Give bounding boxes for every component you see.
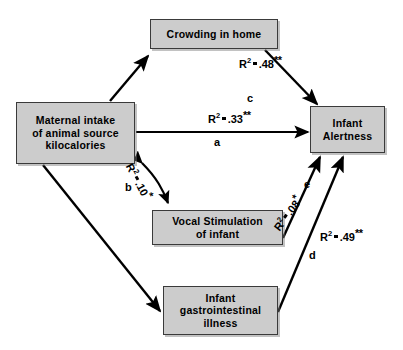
node-infant-gastrointestinal-illness[interactable]: Infant gastrointestinal illness: [163, 286, 278, 335]
path-d-value: .49: [340, 231, 355, 243]
path-c-statistic: R2.48**: [239, 55, 281, 70]
path-a-statistic: R2.33**: [208, 110, 250, 125]
path-d-significance: **: [355, 227, 363, 239]
path-a-exponent: 2: [216, 111, 220, 120]
equals-square-icon: [222, 117, 226, 121]
equals-square-icon: [135, 176, 140, 181]
node-crowding-in-home[interactable]: Crowding in home: [150, 19, 278, 49]
equals-square-icon: [253, 62, 257, 66]
connector-maternal-to-crowding: [110, 56, 148, 101]
path-c-letter: c: [247, 92, 253, 104]
path-b-letter: b: [125, 181, 132, 193]
path-d-exponent: 2: [328, 229, 332, 238]
path-c-exponent: 2: [247, 56, 251, 65]
path-e-letter: e: [304, 178, 310, 190]
path-c-value: .48: [259, 58, 274, 70]
path-c-stat-symbol: R: [239, 58, 247, 70]
path-a-stat-symbol: R: [208, 113, 216, 125]
path-a-letter: a: [214, 136, 220, 148]
node-crowding-label: Crowding in home: [164, 28, 265, 40]
equals-square-icon: [334, 235, 338, 239]
path-c-significance: **: [274, 54, 282, 66]
node-maternal-label: Maternal intake of animal source kilocal…: [29, 114, 122, 151]
node-alertness-label: Infant Alertness: [320, 117, 376, 142]
equals-square-icon: [283, 214, 288, 219]
node-gi-label: Infant gastrointestinal illness: [177, 292, 264, 329]
path-a-significance: **: [243, 109, 251, 121]
node-vocal-label: Vocal Stimulation of infant: [169, 215, 266, 240]
node-maternal-intake[interactable]: Maternal intake of animal source kilocal…: [16, 102, 135, 164]
node-vocal-stimulation[interactable]: Vocal Stimulation of infant: [152, 210, 283, 245]
path-diagram-canvas: Crowding in home Maternal intake of anim…: [0, 0, 403, 350]
path-d-stat-symbol: R: [320, 231, 328, 243]
node-infant-alertness[interactable]: Infant Alertness: [310, 106, 385, 153]
path-a-value: .33: [228, 113, 243, 125]
path-d-letter: d: [309, 249, 316, 261]
path-d-statistic: R2.49**: [320, 228, 362, 243]
